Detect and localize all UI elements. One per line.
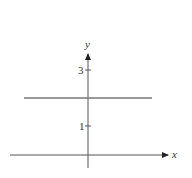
x-axis-label: x (171, 148, 177, 160)
tick-label-3: 3 (78, 64, 84, 76)
tick-label-1: 1 (79, 120, 85, 132)
y-axis-label: y (84, 38, 90, 50)
chart: 3 1 y x (0, 0, 192, 178)
